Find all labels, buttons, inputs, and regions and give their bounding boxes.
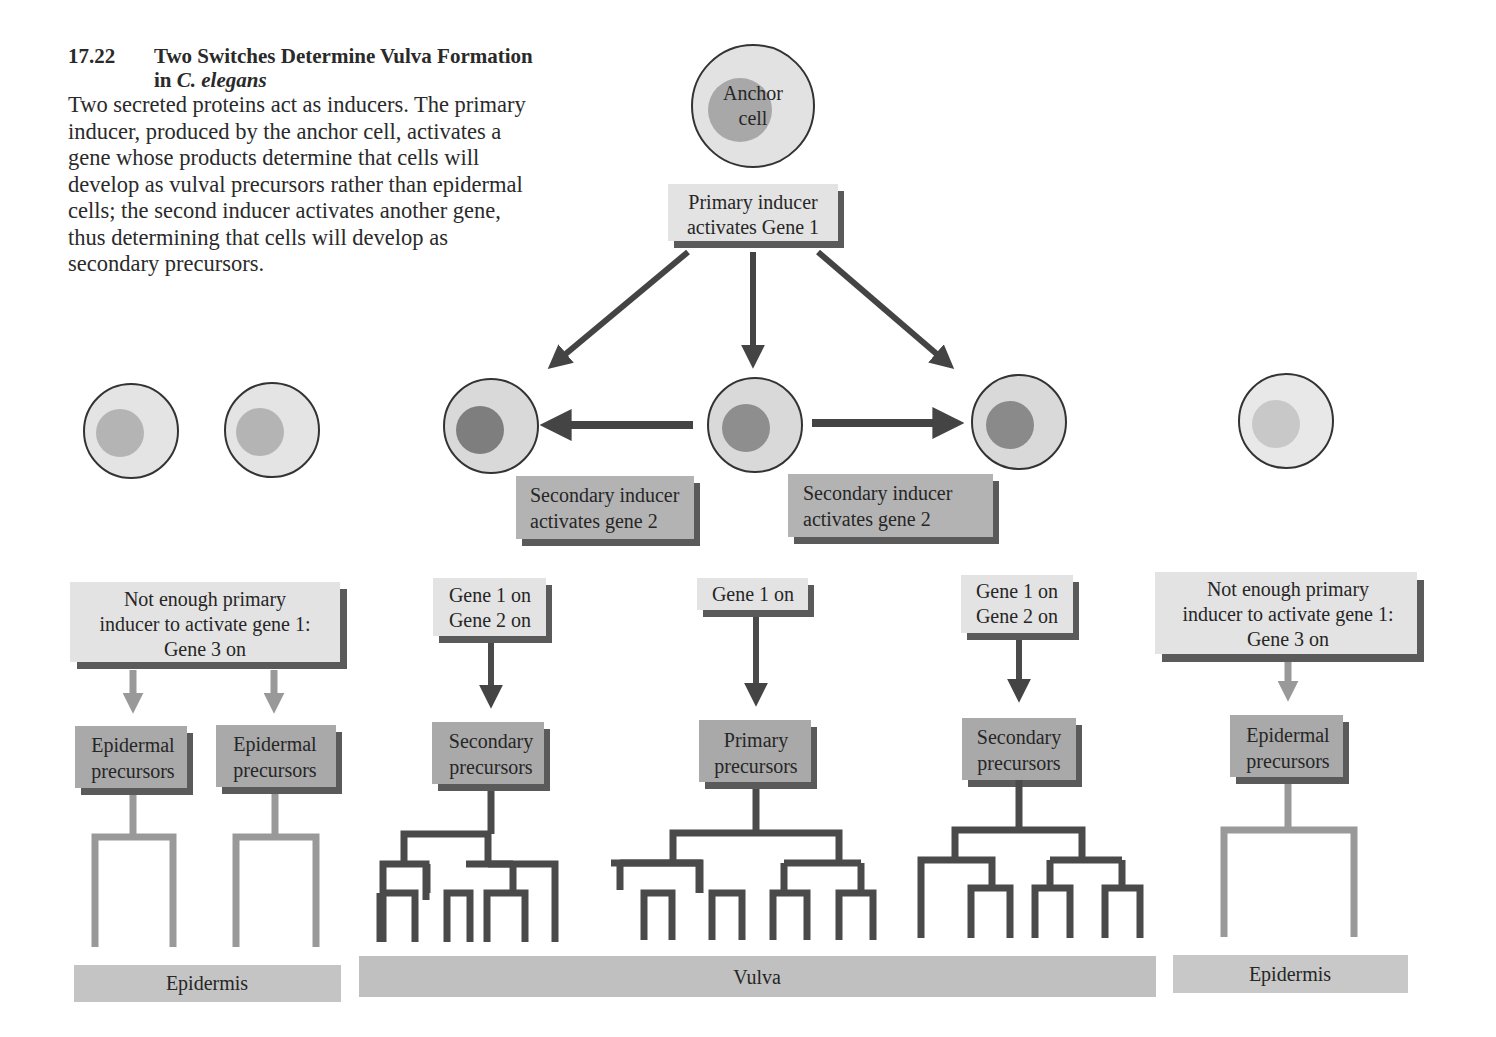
svg-text:Gene 1 on: Gene 1 on bbox=[449, 584, 531, 606]
lineage-epidermal-left bbox=[95, 794, 316, 947]
cell-epidermal-2 bbox=[225, 383, 319, 477]
svg-text:precursors: precursors bbox=[977, 752, 1061, 775]
cell-epidermal-3 bbox=[1239, 374, 1333, 468]
svg-text:precursors: precursors bbox=[233, 759, 317, 782]
primary-inducer-arrows bbox=[556, 252, 946, 362]
gene-state-box-primary: Gene 1 on bbox=[697, 578, 814, 617]
tissue-vulva: Vulva bbox=[359, 956, 1156, 997]
svg-text:Gene 3 on: Gene 3 on bbox=[164, 638, 246, 660]
svg-text:Gene 2 on: Gene 2 on bbox=[449, 609, 531, 631]
vulva-formation-diagram: Anchor cell Primary inducer activates Ge… bbox=[0, 0, 1496, 1037]
lineage-secondary-left bbox=[380, 791, 555, 942]
svg-text:Gene 1 on: Gene 1 on bbox=[976, 580, 1058, 602]
gene-state-box-secondary-left: Gene 1 on Gene 2 on bbox=[433, 578, 552, 643]
precursor-box-epidermal-2: Epidermal precursors bbox=[216, 725, 342, 794]
cell-secondary-left bbox=[444, 379, 538, 473]
svg-text:inducer to activate gene 1:: inducer to activate gene 1: bbox=[1182, 603, 1393, 626]
svg-text:Gene 1 on: Gene 1 on bbox=[712, 583, 794, 605]
secondary-inducer-box-right: Secondary inducer activates gene 2 bbox=[788, 474, 999, 544]
svg-text:precursors: precursors bbox=[1246, 750, 1330, 773]
svg-text:Secondary inducer: Secondary inducer bbox=[803, 482, 953, 505]
anchor-cell-label-2: cell bbox=[739, 107, 768, 129]
svg-text:activates Gene 1: activates Gene 1 bbox=[687, 216, 819, 238]
primary-inducer-box: Primary inducer activates Gene 1 bbox=[668, 184, 844, 248]
gene-state-box-secondary-right: Gene 1 on Gene 2 on bbox=[961, 575, 1079, 640]
svg-text:Primary: Primary bbox=[724, 729, 788, 752]
precursor-box-secondary-right: Secondary precursors bbox=[962, 718, 1082, 787]
precursor-box-primary: Primary precursors bbox=[699, 720, 817, 789]
svg-text:precursors: precursors bbox=[91, 760, 175, 783]
svg-text:inducer to activate gene 1:: inducer to activate gene 1: bbox=[99, 613, 310, 636]
svg-text:Not enough primary: Not enough primary bbox=[1207, 578, 1369, 601]
svg-text:activates gene 2: activates gene 2 bbox=[530, 510, 658, 533]
cell-primary bbox=[708, 378, 802, 472]
svg-text:Secondary: Secondary bbox=[977, 726, 1061, 749]
tissue-epidermis-left: Epidermis bbox=[74, 965, 341, 1002]
gene-state-box-epidermal-left: Not enough primary inducer to activate g… bbox=[70, 582, 347, 669]
svg-text:Not enough primary: Not enough primary bbox=[124, 588, 286, 611]
svg-text:Epidermal: Epidermal bbox=[91, 734, 175, 757]
svg-text:Epidermis: Epidermis bbox=[166, 972, 248, 995]
svg-text:Epidermal: Epidermal bbox=[1246, 724, 1330, 747]
svg-text:activates gene 2: activates gene 2 bbox=[803, 508, 931, 531]
precursor-box-epidermal-3: Epidermal precursors bbox=[1230, 715, 1349, 784]
anchor-cell: Anchor cell bbox=[692, 45, 814, 167]
cell-epidermal-1 bbox=[84, 384, 178, 478]
svg-text:Epidermis: Epidermis bbox=[1249, 963, 1331, 986]
svg-text:Primary inducer: Primary inducer bbox=[688, 191, 818, 214]
svg-text:precursors: precursors bbox=[714, 755, 798, 778]
cell-secondary-right bbox=[972, 375, 1066, 469]
precursor-box-epidermal-1: Epidermal precursors bbox=[75, 726, 193, 795]
svg-text:Secondary: Secondary bbox=[449, 730, 533, 753]
lineage-epidermal-right bbox=[1224, 784, 1354, 937]
svg-text:Gene 2 on: Gene 2 on bbox=[976, 605, 1058, 627]
anchor-cell-label-1: Anchor bbox=[723, 82, 783, 104]
svg-text:Secondary inducer: Secondary inducer bbox=[530, 484, 680, 507]
tissue-epidermis-right: Epidermis bbox=[1173, 955, 1408, 993]
svg-text:precursors: precursors bbox=[449, 756, 533, 779]
lineage-primary bbox=[611, 789, 873, 940]
precursor-box-secondary-left: Secondary precursors bbox=[432, 722, 550, 791]
secondary-inducer-box-left: Secondary inducer activates gene 2 bbox=[516, 476, 700, 546]
lineage-secondary-right bbox=[921, 780, 1140, 938]
svg-text:Gene 3 on: Gene 3 on bbox=[1247, 628, 1329, 650]
gene-state-box-epidermal-right: Not enough primary inducer to activate g… bbox=[1155, 572, 1424, 662]
svg-text:Epidermal: Epidermal bbox=[233, 733, 317, 756]
cell-row bbox=[84, 374, 1333, 478]
svg-text:Vulva: Vulva bbox=[733, 966, 781, 988]
